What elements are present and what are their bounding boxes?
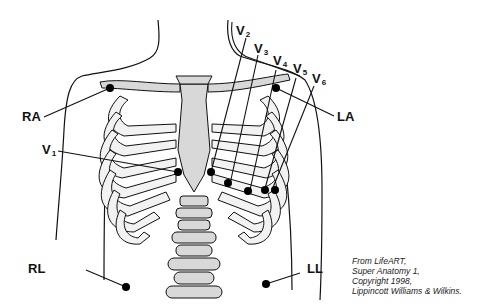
electrode-V4 [244,187,252,195]
label-RA: RA [22,110,41,123]
label-V4: V4 [273,54,287,69]
label-V1: V1 [42,143,56,158]
sternum [178,84,210,192]
label-LA: LA [337,110,354,123]
electrode-RA [106,84,114,92]
electrode-RL [122,283,130,291]
lumbar-spine [166,196,222,298]
label-V5: V5 [293,62,307,77]
label-LL: LL [307,262,323,275]
label-RL: RL [28,262,45,275]
electrode-V2 [207,168,215,176]
electrode-V3 [224,179,232,187]
left-flank-outline [286,170,292,290]
electrode-LA [272,84,280,92]
electrode-LL [262,280,270,288]
label-V2: V2 [236,24,250,39]
credit-line: Lippincott Williams & Wilkins. [352,286,462,296]
manubrium-top [176,76,212,84]
electrode-V6 [271,186,279,194]
image-credit: From LifeART, Super Anatomy 1, Copyright… [352,256,462,296]
electrode-V1 [174,168,182,176]
credit-line: From LifeART, [352,256,462,266]
credit-line: Super Anatomy 1, [352,266,462,276]
electrode-V5 [261,186,269,194]
label-V3: V3 [254,42,268,57]
label-V6: V6 [312,72,326,87]
credit-line: Copyright 1998, [352,276,462,286]
